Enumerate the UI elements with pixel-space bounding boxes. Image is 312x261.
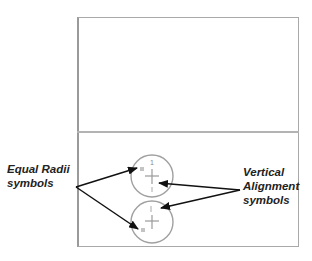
diagram-overlay: 1 (0, 0, 312, 261)
upper-equal-radii-icon (140, 168, 144, 170)
vertical-alignment-arrows (159, 183, 240, 208)
equal-radii-arrows (76, 168, 138, 229)
lower-equal-radii-icon (141, 229, 145, 231)
upper-circle[interactable]: 1 (131, 155, 173, 197)
upper-circle-center-icon (145, 169, 159, 184)
upper-vertical-constraint-icon: 1 (150, 159, 154, 166)
lower-circle-center-icon (145, 215, 159, 229)
